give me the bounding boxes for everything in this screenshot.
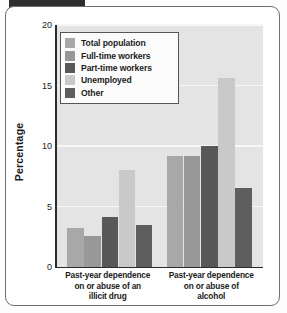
- gridline: [56, 24, 263, 26]
- legend-item[interactable]: Unemployed: [65, 74, 173, 86]
- y-tick-label: 20: [42, 21, 52, 30]
- y-tick-label: 5: [47, 202, 52, 211]
- y-axis-line: [55, 25, 57, 268]
- bar: [67, 228, 84, 267]
- bar: [102, 217, 119, 267]
- bar: [136, 225, 153, 267]
- legend-swatch-icon: [65, 51, 75, 61]
- bar: [218, 78, 235, 267]
- bar: [184, 156, 201, 267]
- legend-item[interactable]: Total population: [65, 37, 173, 49]
- legend-swatch-icon: [65, 75, 75, 85]
- legend-swatch-icon: [65, 63, 75, 73]
- x-category-label: Past-year dependenceon or abuse of anill…: [56, 270, 160, 302]
- legend-swatch-icon: [65, 38, 75, 48]
- legend-swatch-icon: [65, 88, 75, 98]
- bar: [167, 156, 184, 267]
- y-axis-title: Percentage: [13, 102, 25, 202]
- bar: [235, 188, 252, 267]
- x-category-label-line: on or abuse of an: [56, 281, 160, 292]
- legend-item[interactable]: Other: [65, 87, 173, 99]
- legend-item[interactable]: Part-time workers: [65, 62, 173, 74]
- x-category-label: Past-year dependenceon or abuse ofalcoho…: [159, 270, 263, 302]
- x-axis-line: [55, 267, 263, 269]
- legend[interactable]: Total populationFull-time workersPart-ti…: [60, 32, 179, 104]
- x-category-label-line: on or abuse of: [159, 281, 263, 292]
- legend-item[interactable]: Full-time workers: [65, 49, 173, 61]
- y-tick-label: 0: [47, 263, 52, 272]
- x-category-label-line: alcohol: [159, 291, 263, 302]
- chart-page: Percentage 05101520 Total populationFull…: [0, 0, 287, 313]
- legend-label: Other: [81, 88, 103, 98]
- x-category-label-line: Past-year dependence: [56, 270, 160, 281]
- bar: [119, 170, 136, 267]
- legend-label: Unemployed: [81, 75, 132, 85]
- y-tick-label: 10: [42, 142, 52, 151]
- legend-label: Full-time workers: [81, 51, 150, 61]
- x-category-label-line: Past-year dependence: [159, 270, 263, 281]
- legend-label: Part-time workers: [81, 63, 152, 73]
- x-category-label-line: illicit drug: [56, 291, 160, 302]
- legend-label: Total population: [81, 38, 146, 48]
- y-tick-label: 15: [42, 81, 52, 90]
- bar: [201, 146, 218, 267]
- bar: [84, 236, 101, 267]
